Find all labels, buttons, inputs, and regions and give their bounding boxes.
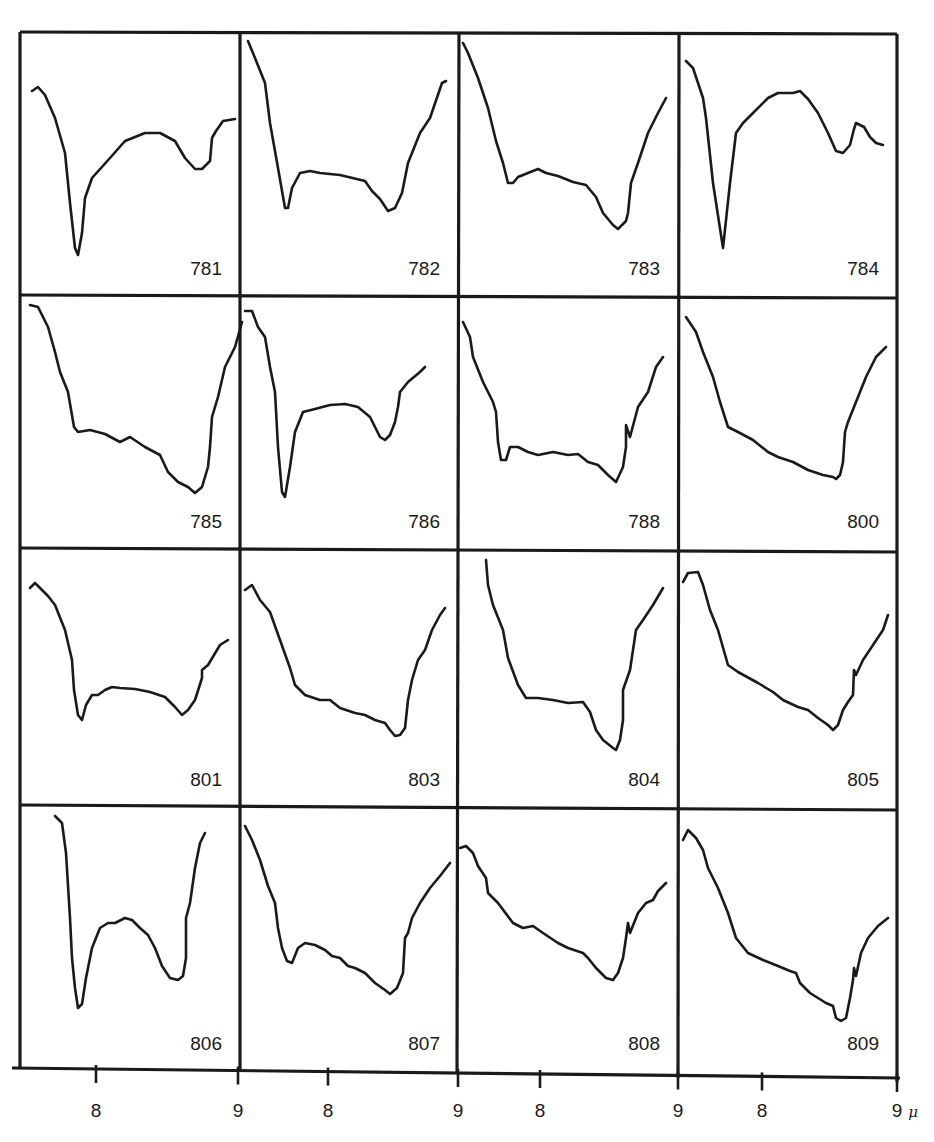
x-axis-tick-labels: 89898989μ bbox=[91, 1100, 918, 1121]
spectrum-curve bbox=[55, 816, 205, 1008]
spectrum-curve bbox=[460, 846, 666, 980]
spectrum-curve bbox=[32, 87, 235, 255]
spectrum-panel-784: 784 bbox=[686, 61, 883, 279]
sample-number-label: 804 bbox=[628, 769, 660, 790]
spectrum-panel-782: 782 bbox=[248, 41, 446, 279]
x-axis-tick-label: 9 bbox=[673, 1100, 684, 1121]
spectrum-curve bbox=[245, 311, 425, 497]
sample-number-label: 785 bbox=[190, 511, 222, 532]
spectrum-curve bbox=[248, 41, 446, 211]
spectrum-panel-800: 800 bbox=[686, 317, 886, 532]
spectrum-panel-809: 809 bbox=[683, 830, 888, 1054]
x-axis-tick-label: 8 bbox=[757, 1100, 768, 1121]
spectrum-panel-781: 781 bbox=[32, 87, 235, 279]
sample-number-label: 786 bbox=[408, 511, 440, 532]
spectrum-panel-804: 804 bbox=[486, 560, 663, 790]
spectrum-panel-788: 788 bbox=[463, 322, 663, 532]
x-axis-tick-label: 8 bbox=[91, 1100, 102, 1121]
spectrum-panel-808: 808 bbox=[460, 846, 666, 1054]
spectrum-panel-786: 786 bbox=[245, 311, 440, 532]
x-axis-unit-label: μ bbox=[908, 1103, 918, 1121]
sample-number-label: 806 bbox=[190, 1033, 222, 1054]
spectrum-curve bbox=[683, 830, 888, 1021]
sample-number-label: 800 bbox=[847, 511, 879, 532]
spectrum-panel-785: 785 bbox=[30, 305, 242, 532]
spectrum-curve bbox=[686, 61, 883, 248]
spectra-grid-figure: 89898989μ 781782783784785786788800801803… bbox=[0, 0, 934, 1142]
spectrum-curve bbox=[30, 583, 228, 720]
sample-number-label: 801 bbox=[190, 769, 222, 790]
spectrum-curve bbox=[686, 317, 886, 479]
sample-number-label: 805 bbox=[847, 769, 879, 790]
spectrum-panel-807: 807 bbox=[245, 826, 450, 1054]
sample-number-label: 788 bbox=[628, 511, 660, 532]
spectrum-curve bbox=[30, 305, 242, 493]
spectrum-panel-783: 783 bbox=[463, 43, 666, 279]
spectrum-curve bbox=[486, 560, 663, 750]
spectrum-panel-803: 803 bbox=[245, 585, 445, 790]
grid-frame bbox=[12, 32, 900, 1082]
x-axis-tick-label: 9 bbox=[233, 1100, 244, 1121]
spectrum-panel-805: 805 bbox=[683, 572, 888, 790]
sample-number-label: 803 bbox=[408, 769, 440, 790]
spectrum-curve bbox=[463, 43, 666, 229]
sample-number-label: 784 bbox=[847, 258, 879, 279]
sample-number-label: 808 bbox=[628, 1033, 660, 1054]
x-axis-tick-label: 9 bbox=[453, 1100, 464, 1121]
x-axis-tick-label: 8 bbox=[535, 1100, 546, 1121]
spectrum-curve bbox=[245, 826, 450, 994]
spectrum-curve bbox=[683, 572, 888, 730]
x-axis-tick-label: 8 bbox=[323, 1100, 334, 1121]
sample-number-label: 783 bbox=[628, 258, 660, 279]
sample-number-label: 781 bbox=[190, 258, 222, 279]
sample-number-label: 782 bbox=[408, 258, 440, 279]
x-axis-tick-label: 9 bbox=[892, 1100, 903, 1121]
sample-number-label: 809 bbox=[847, 1033, 879, 1054]
spectrum-curve bbox=[463, 322, 663, 482]
spectrum-panel-801: 801 bbox=[30, 583, 228, 790]
spectrum-panel-806: 806 bbox=[55, 816, 222, 1054]
spectrum-curve bbox=[245, 585, 445, 736]
sample-number-label: 807 bbox=[408, 1033, 440, 1054]
